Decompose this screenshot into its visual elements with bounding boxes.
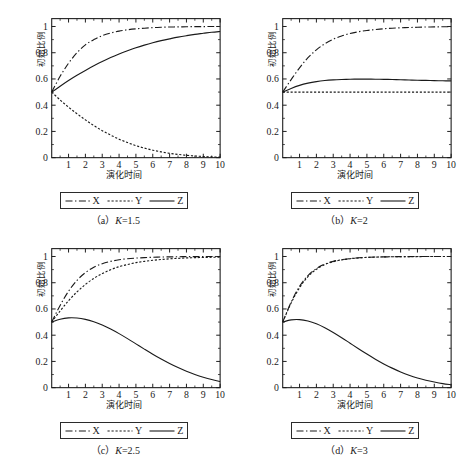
legend-item-z: Z	[380, 426, 414, 436]
legend-line-dotted-icon	[338, 197, 364, 205]
legend-a: XYZ	[60, 192, 188, 209]
four-panel-figure: 1234567891000.20.40.60.81初始比例演化时间XYZ（a）K…	[0, 0, 462, 463]
svg-text:0.2: 0.2	[36, 126, 48, 137]
caption-param: K	[115, 445, 122, 456]
svg-text:0.4: 0.4	[267, 330, 279, 341]
chart-panel-c: 1234567891000.20.40.60.81初始比例演化时间XYZ（c）K…	[0, 232, 231, 463]
legend-line-dotted-icon	[338, 427, 364, 435]
legend-label: Z	[408, 426, 414, 436]
x-axis-label: 演化时间	[269, 398, 441, 411]
caption-value: =3	[357, 445, 368, 456]
svg-text:0.4: 0.4	[36, 330, 48, 341]
legend-label: X	[324, 426, 331, 436]
legend-item-x: X	[296, 196, 331, 206]
plot-area-c: 1234567891000.20.40.60.81	[38, 246, 210, 388]
y-axis-label: 初始比例	[37, 236, 46, 322]
plot-area-b: 1234567891000.20.40.60.81	[269, 16, 441, 158]
legend-item-z: Z	[380, 196, 414, 206]
panel-caption-d: （d）K=3	[231, 442, 462, 457]
legend-line-dotted-icon	[107, 427, 133, 435]
legend-label: Z	[177, 196, 183, 206]
chart-panel-b: 1234567891000.20.40.60.81初始比例演化时间XYZ（b）K…	[231, 0, 462, 232]
svg-text:10: 10	[215, 159, 225, 170]
plot-area-d: 1234567891000.20.40.60.81	[269, 246, 441, 388]
chart-panel-d: 1234567891000.20.40.60.81初始比例演化时间XYZ（d）K…	[231, 232, 462, 463]
legend-line-dash-dot-icon	[296, 427, 322, 435]
y-axis-label: 初始比例	[37, 6, 46, 92]
caption-param: K	[115, 215, 122, 226]
caption-index: （c）	[91, 445, 115, 456]
legend-label: Y	[135, 196, 142, 206]
legend-item-x: X	[296, 426, 331, 436]
panel-caption-c: （c）K=2.5	[0, 442, 231, 457]
legend-line-dash-dot-icon	[296, 197, 322, 205]
legend-line-dash-dot-icon	[65, 197, 91, 205]
legend-line-solid-icon	[380, 427, 406, 435]
svg-text:0.2: 0.2	[267, 356, 279, 367]
legend-line-solid-icon	[149, 197, 175, 205]
svg-text:0.4: 0.4	[267, 100, 279, 111]
legend-item-y: Y	[338, 196, 373, 206]
y-axis-label: 初始比例	[268, 236, 277, 322]
legend-label: Z	[177, 426, 183, 436]
panel-caption-a: （a）K=1.5	[0, 212, 231, 227]
legend-label: Z	[408, 196, 414, 206]
y-axis-label: 初始比例	[268, 6, 277, 92]
svg-text:0: 0	[274, 152, 279, 163]
legend-label: Y	[135, 426, 142, 436]
legend-item-x: X	[65, 426, 100, 436]
caption-index: （d）	[325, 445, 350, 456]
plot-area-a: 1234567891000.20.40.60.81	[38, 16, 210, 158]
legend-label: X	[93, 196, 100, 206]
caption-index: （b）	[325, 215, 350, 226]
legend-b: XYZ	[291, 192, 419, 209]
x-axis-label: 演化时间	[38, 168, 210, 181]
x-axis-label: 演化时间	[38, 398, 210, 411]
legend-label: Y	[366, 196, 373, 206]
legend-item-y: Y	[107, 196, 142, 206]
legend-label: X	[93, 426, 100, 436]
legend-item-y: Y	[338, 426, 373, 436]
legend-item-z: Z	[149, 426, 183, 436]
caption-value: =2	[357, 215, 368, 226]
legend-item-z: Z	[149, 196, 183, 206]
legend-line-solid-icon	[149, 427, 175, 435]
caption-index: （a）	[91, 215, 115, 226]
svg-text:10: 10	[215, 389, 225, 400]
legend-label: X	[324, 196, 331, 206]
svg-text:10: 10	[446, 389, 456, 400]
legend-line-solid-icon	[380, 197, 406, 205]
svg-text:0.4: 0.4	[36, 100, 48, 111]
legend-label: Y	[366, 426, 373, 436]
legend-c: XYZ	[60, 422, 188, 439]
caption-value: =1.5	[122, 215, 140, 226]
legend-line-dotted-icon	[107, 197, 133, 205]
panel-caption-b: （b）K=2	[231, 212, 462, 227]
svg-text:0: 0	[274, 382, 279, 393]
caption-param: K	[350, 445, 357, 456]
legend-item-y: Y	[107, 426, 142, 436]
svg-text:0: 0	[43, 382, 48, 393]
chart-panel-a: 1234567891000.20.40.60.81初始比例演化时间XYZ（a）K…	[0, 0, 231, 232]
svg-text:10: 10	[446, 159, 456, 170]
legend-line-dash-dot-icon	[65, 427, 91, 435]
x-axis-label: 演化时间	[269, 168, 441, 181]
legend-item-x: X	[65, 196, 100, 206]
svg-text:0: 0	[43, 152, 48, 163]
legend-d: XYZ	[291, 422, 419, 439]
caption-value: =2.5	[122, 445, 140, 456]
svg-text:0.2: 0.2	[36, 356, 48, 367]
caption-param: K	[350, 215, 357, 226]
svg-text:0.2: 0.2	[267, 126, 279, 137]
